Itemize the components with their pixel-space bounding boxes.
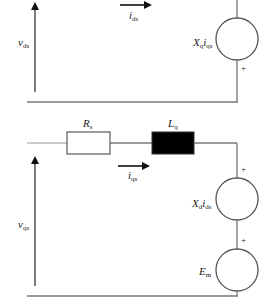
circuit-diagram: vds ids + Xqiqs Rs Lq — [0, 0, 275, 301]
xq-iqs-source-icon — [216, 18, 258, 60]
xq-iqs-label: Xqiqs — [192, 36, 213, 50]
resistor-rs-icon — [67, 132, 110, 154]
xd-ids-source-icon — [216, 178, 258, 220]
inductor-lq-icon — [152, 132, 194, 154]
em-source-icon — [216, 249, 258, 291]
rs-label: Rs — [82, 117, 93, 131]
iqs-label: iqs — [128, 169, 138, 183]
em-polarity: + — [241, 235, 246, 245]
d-axis-circuit: vds ids + Xqiqs — [18, 0, 258, 102]
vqs-label: vqs — [18, 218, 29, 232]
xq-iqs-polarity: + — [241, 63, 246, 73]
xd-ids-label: Xdids — [191, 197, 212, 211]
ids-label: ids — [129, 9, 139, 23]
vds-label: vds — [18, 36, 29, 50]
em-label: Em — [198, 265, 212, 279]
q-axis-circuit: Rs Lq iqs vqs + Xdids + Em — [18, 117, 258, 296]
xd-ids-polarity: + — [241, 164, 246, 174]
lq-label: Lq — [167, 117, 178, 131]
